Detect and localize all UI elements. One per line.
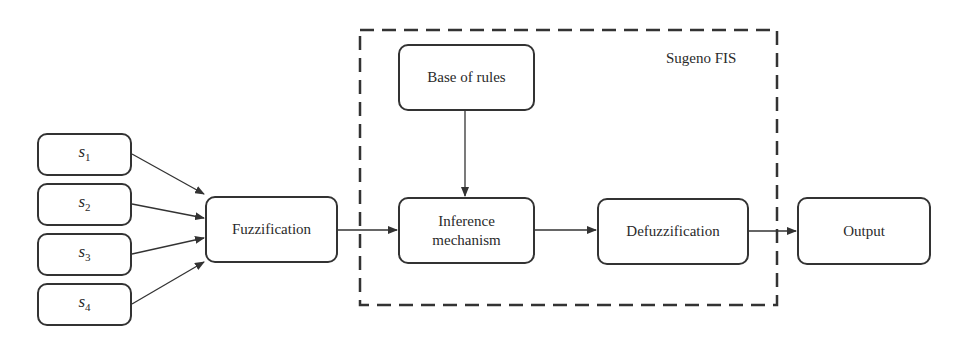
arrow-s2-to-fuzzification — [132, 204, 204, 218]
inference-label-line1: Inference — [438, 212, 495, 231]
base-of-rules-label: Base of rules — [427, 68, 505, 87]
arrow-s1-to-fuzzification — [132, 154, 204, 194]
input-s1-label: s1 — [78, 142, 90, 167]
input-s4-label: s4 — [78, 292, 90, 317]
input-s3-label: s3 — [78, 242, 90, 267]
fuzzification-label: Fuzzification — [232, 220, 311, 239]
input-s2-node: s2 — [37, 183, 132, 226]
output-label: Output — [843, 222, 885, 241]
defuzzification-node: Defuzzification — [597, 198, 749, 265]
output-node: Output — [797, 197, 931, 265]
inference-label-line2: mechanism — [432, 231, 500, 250]
input-s4-node: s4 — [37, 283, 132, 326]
arrow-s3-to-fuzzification — [132, 238, 204, 254]
input-s3-node: s3 — [37, 233, 132, 276]
defuzzification-label: Defuzzification — [626, 222, 719, 241]
inference-mechanism-node: Inference mechanism — [398, 197, 535, 264]
arrow-s4-to-fuzzification — [132, 262, 204, 304]
input-s1-node: s1 — [37, 133, 132, 176]
input-s2-label: s2 — [78, 192, 90, 217]
base-of-rules-node: Base of rules — [398, 44, 535, 111]
fuzzification-node: Fuzzification — [205, 196, 338, 263]
sugeno-fis-label: Sugeno FIS — [666, 50, 736, 67]
